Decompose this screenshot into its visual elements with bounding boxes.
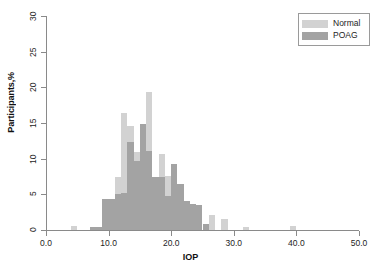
y-tick-label: 20 [26, 80, 40, 94]
y-tick-label: 10 [26, 152, 40, 166]
y-tick-label: 25 [26, 45, 40, 59]
histogram-bar [221, 219, 227, 230]
histogram-bar [290, 226, 296, 230]
legend-label-normal: Normal [333, 19, 360, 28]
legend-swatch-normal-icon [302, 20, 328, 28]
legend-label-poag: POAG [333, 31, 358, 40]
x-tick-label: 10.0 [89, 238, 129, 248]
y-tick-label: 0 [26, 223, 40, 237]
x-tick-label: 0.0 [26, 238, 66, 248]
x-tick [171, 231, 172, 236]
x-tick-label: 30.0 [214, 238, 254, 248]
legend-item-normal: Normal [302, 18, 366, 29]
x-tick-label: 40.0 [276, 238, 316, 248]
x-tick [359, 231, 360, 236]
x-axis-line [46, 230, 359, 231]
y-tick-label: 15 [26, 116, 40, 130]
x-tick [296, 231, 297, 236]
x-tick [109, 231, 110, 236]
y-axis-title: Participants,% [6, 72, 16, 133]
histogram-bar [71, 226, 77, 230]
legend-item-poag: POAG [302, 30, 366, 41]
histogram-bar [243, 227, 249, 230]
x-tick-label: 50.0 [339, 238, 379, 248]
y-tick-label: 30 [26, 9, 40, 23]
histogram-bar [209, 215, 215, 230]
legend-swatch-poag-icon [302, 32, 328, 40]
x-tick [46, 231, 47, 236]
histogram-figure: 051015202530 0.010.020.030.040.050.0 Par… [0, 0, 381, 279]
plot-area [46, 16, 359, 230]
x-tick-label: 20.0 [151, 238, 191, 248]
x-axis-title: IOP [0, 252, 381, 262]
histogram-bar [203, 224, 209, 230]
y-tick-label: 5 [26, 187, 40, 201]
legend: Normal POAG [298, 13, 370, 46]
x-tick [234, 231, 235, 236]
